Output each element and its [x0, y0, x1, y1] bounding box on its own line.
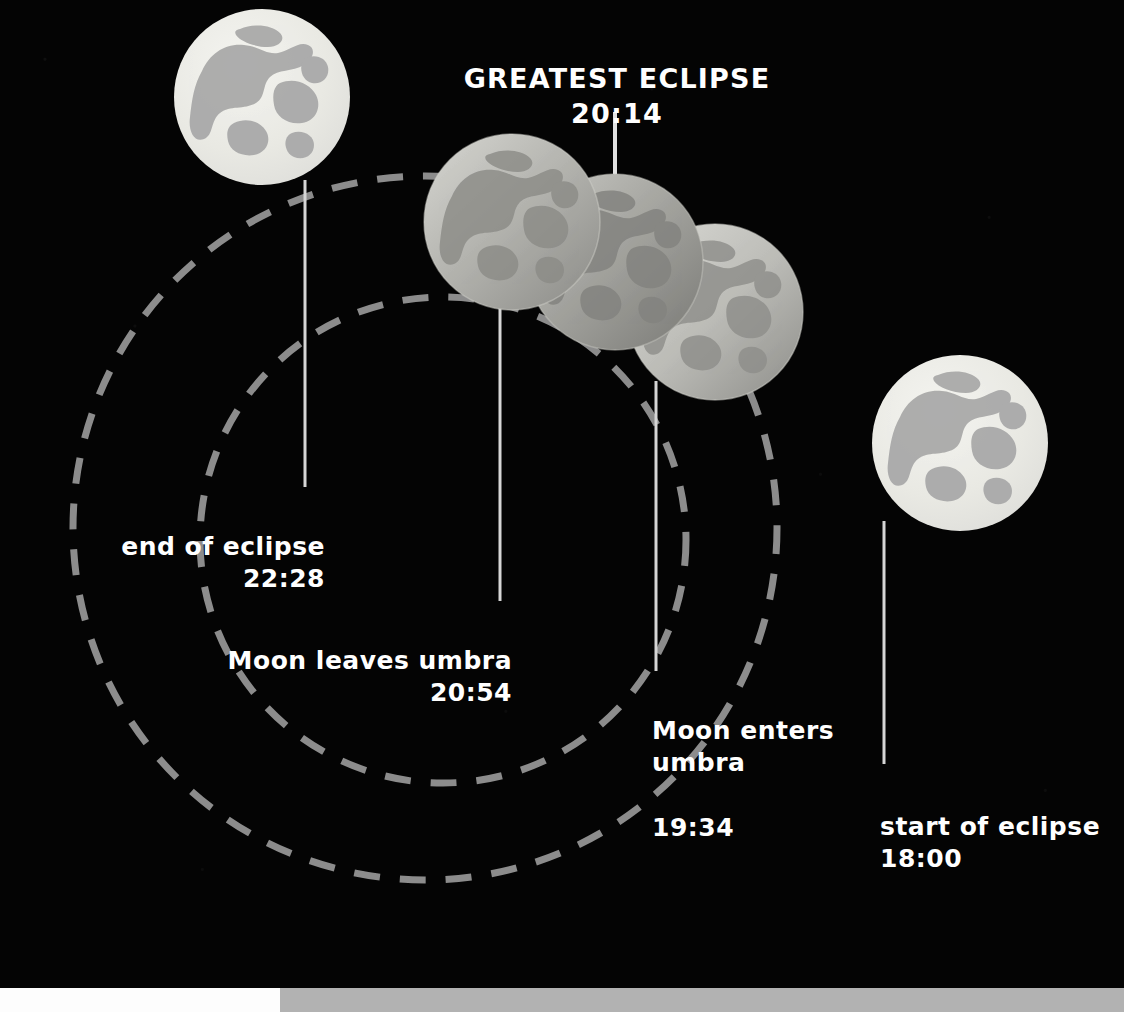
label-end-of-eclipse: end of eclipse 22:28: [20, 498, 325, 628]
label-start-of-eclipse-title: start of eclipse: [880, 812, 1100, 841]
label-moon-enters-umbra-title: Moon enters: [652, 716, 834, 745]
label-moon-leaves-umbra: Moon leaves umbra 20:54: [180, 612, 512, 742]
label-moon-enters-umbra-time: 19:34: [652, 812, 872, 845]
label-start-of-eclipse-time: 18:00: [880, 843, 1115, 876]
label-moon-leaves-umbra-time: 20:54: [180, 677, 512, 710]
moon-end-of-eclipse: [174, 9, 350, 185]
bottom-bar-white-segment: [0, 988, 280, 1012]
label-start-of-eclipse: start of eclipse 18:00: [880, 778, 1115, 908]
label-end-of-eclipse-title: end of eclipse: [121, 532, 325, 561]
label-greatest-eclipse: GREATEST ECLIPSE 20:14: [462, 26, 772, 166]
moon-start-of-eclipse: [872, 355, 1048, 531]
bottom-bar-gray-segment: [280, 988, 1124, 1012]
label-moon-enters-umbra: Moon enters umbra 19:34: [652, 682, 872, 877]
bottom-bar: [0, 988, 1124, 1012]
eclipse-diagram: GREATEST ECLIPSE 20:14 end of eclipse 22…: [0, 0, 1124, 1012]
label-moon-leaves-umbra-title: Moon leaves umbra: [228, 646, 512, 675]
label-greatest-eclipse-time: 20:14: [462, 96, 772, 131]
label-greatest-eclipse-title: GREATEST ECLIPSE: [464, 63, 771, 94]
label-moon-enters-umbra-title2: umbra: [652, 747, 872, 780]
label-end-of-eclipse-time: 22:28: [20, 563, 325, 596]
